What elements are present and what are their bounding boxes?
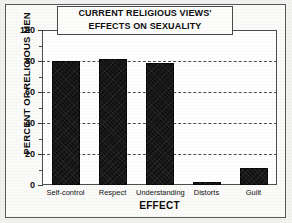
x-tick-label: Guilt: [230, 188, 277, 197]
chart-title-line-1: CURRENT RELIGIOUS VIEWS': [57, 7, 233, 20]
chart-title-line-2: EFFECTS ON SEXUALITY: [57, 20, 233, 33]
bar: [146, 63, 174, 185]
bar: [240, 168, 268, 185]
y-tick-minor: [39, 77, 42, 78]
y-tick-label: 40: [11, 118, 35, 128]
y-tick-major: [38, 154, 43, 155]
x-tick-label: Understanding: [136, 188, 183, 197]
y-tick-minor: [39, 170, 42, 171]
y-tick-major: [38, 92, 43, 93]
bar: [52, 61, 80, 185]
y-tick-minor: [39, 46, 42, 47]
bar-texture: [99, 59, 127, 185]
y-tick-label: 60: [11, 87, 35, 97]
bar-texture: [146, 63, 174, 185]
y-tick-minor: [39, 108, 42, 109]
y-tick-minor: [39, 139, 42, 140]
y-tick-label: 0: [11, 180, 35, 190]
y-tick-major: [38, 185, 43, 186]
x-tick-label: Distorts: [183, 188, 230, 197]
y-tick-major: [38, 123, 43, 124]
y-tick-major: [38, 30, 43, 31]
chart-title: CURRENT RELIGIOUS VIEWS' EFFECTS ON SEXU…: [57, 7, 233, 32]
chart-figure: CURRENT RELIGIOUS VIEWS' EFFECTS ON SEXU…: [0, 0, 292, 223]
y-tick-major: [38, 61, 43, 62]
x-axis-title: EFFECT: [42, 200, 277, 211]
y-tick-label: 80: [11, 56, 35, 66]
x-tick-label: Respect: [89, 188, 136, 197]
bar: [99, 59, 127, 185]
x-tick-label: Self-control: [42, 188, 89, 197]
y-tick-label: 100: [11, 25, 35, 35]
bar-texture: [240, 168, 268, 185]
bar-texture: [52, 61, 80, 185]
y-tick-label: 20: [11, 149, 35, 159]
plot-area: [42, 30, 277, 185]
bar-texture: [193, 182, 221, 185]
bar: [193, 182, 221, 185]
